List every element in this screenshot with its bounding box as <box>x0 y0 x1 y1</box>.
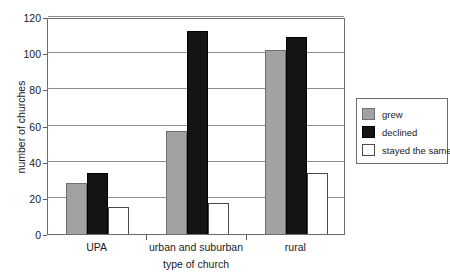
bar-declined-rural <box>286 37 307 234</box>
x-tick-label: urban and suburban <box>149 241 243 253</box>
legend-item: declined <box>362 123 442 141</box>
x-tick-mark <box>246 235 247 240</box>
legend: grewdeclinedstayed the same <box>356 98 448 164</box>
plot-area <box>47 18 345 235</box>
legend-label: declined <box>382 127 417 138</box>
bar-grew-rural <box>265 50 286 234</box>
y-tick-mark <box>43 235 47 236</box>
bar-grew-urban-and-suburban <box>166 131 187 234</box>
x-tick-label: UPA <box>86 241 107 253</box>
bar-grew-UPA <box>66 183 87 234</box>
y-axis-title: number of churches <box>15 67 27 187</box>
legend-swatch-icon <box>362 144 375 156</box>
bar-stayed-urban-and-suburban <box>208 203 229 234</box>
x-axis-title: type of church <box>47 258 345 270</box>
bar-declined-urban-and-suburban <box>187 31 208 234</box>
bar-stayed-rural <box>307 173 328 234</box>
legend-item: grew <box>362 105 442 123</box>
chart-figure: number of churches 020406080100120 UPAur… <box>0 0 450 272</box>
legend-swatch-icon <box>362 126 375 138</box>
gridline <box>48 16 344 17</box>
bar-declined-UPA <box>87 173 108 234</box>
legend-swatch-icon <box>362 108 375 120</box>
legend-label: grew <box>382 109 403 120</box>
y-axis-title-container: number of churches <box>6 18 20 235</box>
legend-label: stayed the same <box>382 145 450 156</box>
legend-item: stayed the same <box>362 141 442 159</box>
bar-stayed-UPA <box>108 207 129 234</box>
x-tick-label: rural <box>285 241 306 253</box>
x-tick-mark <box>146 235 147 240</box>
